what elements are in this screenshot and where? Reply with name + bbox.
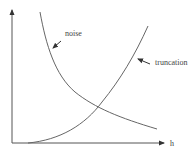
truncation-curve (28, 26, 148, 143)
error-tradeoff-diagram: h noise truncation (0, 0, 195, 149)
x-axis-label: h (170, 139, 174, 148)
noise-pointer-arrow (53, 41, 61, 48)
noise-label: noise (65, 29, 82, 38)
truncation-label: truncation (155, 58, 187, 67)
truncation-pointer-arrow (138, 59, 150, 64)
noise-curve (40, 12, 157, 129)
